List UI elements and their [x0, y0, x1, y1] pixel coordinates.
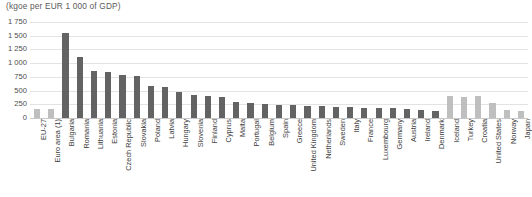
x-axis-category-label: Lithuania	[97, 89, 104, 119]
x-axis-category-label: Hungary	[182, 91, 189, 119]
x-axis-category-label: Cyprus	[225, 96, 232, 119]
x-axis-category-label-text: Greece	[296, 119, 303, 143]
bar	[77, 57, 83, 118]
bar	[376, 108, 382, 118]
x-axis-category-label-text: Italy	[353, 119, 360, 133]
x-axis-category-label-text: Euro area (1)	[54, 119, 61, 163]
x-axis-category-label: Denmark	[438, 89, 445, 119]
bar	[191, 95, 197, 118]
x-axis-category-label-text: Turkey	[467, 119, 474, 141]
x-axis-category-label-text: Denmark	[438, 119, 445, 149]
bar	[134, 76, 140, 118]
x-axis-category-label-text: Ireland	[424, 119, 431, 142]
x-axis-category-label: Estonia	[111, 94, 118, 119]
x-axis-category-label-text: Portugal	[253, 119, 260, 147]
y-axis-tick-label: 1 250	[8, 46, 27, 54]
x-axis-category-label: Spain	[282, 100, 289, 119]
x-axis-category-label: Romania	[83, 89, 90, 119]
chart-unit-title: (kgoe per EUR 1 000 of GDP)	[6, 1, 121, 11]
bar	[504, 110, 510, 118]
x-axis-category-label-text: Cyprus	[225, 119, 232, 142]
x-axis-category-label-text: Netherlands	[325, 119, 332, 159]
x-axis-category-label-text: Norway	[510, 119, 517, 144]
x-axis-category-label-text: United States	[495, 119, 502, 163]
x-axis-category-label: Greece	[296, 95, 303, 119]
x-axis-category-label-text: Malta	[239, 119, 246, 137]
x-axis-category-label-text: Finland	[211, 119, 218, 143]
x-axis-category-label-text: Luxembourg	[382, 119, 389, 160]
y-axis-tick-label: 1 500	[8, 32, 27, 40]
x-axis-category-label: Germany	[396, 89, 403, 119]
bar	[390, 108, 396, 118]
x-axis-category-label: Belgium	[268, 92, 275, 119]
x-axis-category-label-text: EU-27	[40, 119, 47, 140]
x-axis-category-label-text: Poland	[154, 119, 161, 142]
x-axis-category-label: Malta	[239, 101, 246, 119]
x-axis-category-label-text: Croatia	[481, 119, 488, 143]
x-axis-category-label-text: Czech Republic	[125, 119, 132, 171]
x-axis-category-label: Netherlands	[325, 79, 332, 119]
bar	[447, 96, 453, 118]
x-axis-category-label: Austria	[410, 96, 417, 119]
y-axis-tick-label: 750	[14, 73, 27, 81]
x-axis-category-label: Slovenia	[197, 91, 204, 119]
x-axis-category-label: Czech Republic	[125, 67, 132, 119]
x-axis-category-label-text: Estonia	[111, 119, 118, 144]
x-axis-category-label: United States	[495, 75, 502, 119]
x-axis-category-label-text: Slovakia	[140, 119, 147, 147]
y-axis-tick-label: 0	[23, 114, 27, 122]
bar	[319, 106, 325, 118]
x-axis-category-label-text: Lithuania	[97, 119, 104, 149]
x-axis-category-label: Croatia	[481, 95, 488, 119]
x-axis-category-label-text: Slovenia	[197, 119, 204, 147]
x-axis-category-label: Italy	[353, 105, 360, 119]
x-axis-category-label-text: Bulgaria	[68, 119, 75, 146]
y-axis-tick-label: 1 750	[8, 18, 27, 26]
x-axis-category-label-text: Hungary	[182, 119, 189, 147]
x-axis-category-label-text: Spain	[282, 119, 289, 138]
x-axis-category-label-text: Latvia	[168, 119, 175, 139]
x-axis-category-label: France	[367, 96, 374, 119]
x-axis-category-label-text: Romania	[83, 119, 90, 149]
x-axis-category-label-text: Austria	[410, 119, 417, 142]
y-axis-tick-label: 250	[14, 100, 27, 108]
x-axis-category-label: Euro area (1)	[54, 75, 61, 119]
x-axis-category-label: Sweden	[339, 92, 346, 119]
x-axis-category-label: Bulgaria	[68, 92, 75, 119]
y-axis-tick-labels: 02505007501 0001 2501 5001 750	[0, 22, 27, 118]
x-axis-category-label-text: France	[367, 119, 374, 142]
x-axis-category-label-text: Japan	[524, 119, 531, 139]
y-axis-tick-label: 1 000	[8, 59, 27, 67]
x-axis-category-label: Portugal	[253, 91, 260, 119]
x-axis-category-label: Norway	[510, 94, 517, 119]
x-axis-category-label-text: United Kingdom	[310, 119, 317, 172]
x-axis-category-labels: EU-27Euro area (1)BulgariaRomaniaLithuan…	[30, 119, 528, 197]
x-axis-category-label: Poland	[154, 96, 161, 119]
x-axis-category-label: Ireland	[424, 96, 431, 119]
x-axis-category-label-text: Germany	[396, 119, 403, 149]
bar	[205, 96, 211, 118]
x-axis-category-label: Finland	[211, 95, 218, 119]
chart-figure: (kgoe per EUR 1 000 of GDP) 02505007501 …	[0, 0, 532, 197]
y-axis-tick-label: 500	[14, 87, 27, 95]
x-axis-category-label: Turkey	[467, 97, 474, 119]
bar	[262, 104, 268, 118]
x-axis-category-label: Latvia	[168, 99, 175, 119]
x-axis-category-label: United Kingdom	[310, 66, 317, 119]
x-axis-category-label: Iceland	[453, 95, 460, 119]
x-axis-category-label: Japan	[524, 99, 531, 119]
x-axis-category-label: Slovakia	[140, 91, 147, 119]
x-axis-category-label-text: Iceland	[453, 119, 460, 143]
x-axis-category-label: Luxembourg	[382, 78, 389, 119]
x-axis-category-label-text: Sweden	[339, 119, 346, 146]
x-axis-category-label-text: Belgium	[268, 119, 275, 146]
x-axis-category-label: EU-27	[40, 98, 47, 119]
